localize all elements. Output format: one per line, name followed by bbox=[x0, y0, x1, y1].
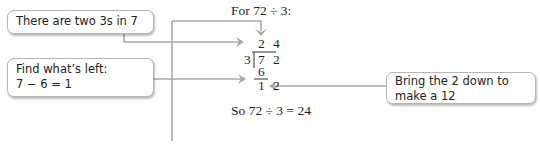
divisor: 3 bbox=[244, 52, 251, 68]
callout-text-line1: Bring the 2 down to bbox=[395, 74, 527, 89]
remainder-digit-2: 2 bbox=[273, 78, 280, 94]
callout-text-line1: Find what’s left: bbox=[16, 62, 145, 77]
quotient-digit-2: 4 bbox=[273, 36, 280, 52]
division-conclusion: So 72 ÷ 3 = 24 bbox=[231, 103, 311, 119]
callout-two-threes: There are two 3s in 7 bbox=[7, 10, 154, 34]
callout-bring-down: Bring the 2 down to make a 12 bbox=[386, 72, 536, 104]
dividend-digit-2: 2 bbox=[273, 52, 280, 68]
callout-text-line2: make a 12 bbox=[395, 89, 527, 104]
callout-text-line2: 7 − 6 = 1 bbox=[16, 77, 145, 92]
callout-text: There are two 3s in 7 bbox=[16, 14, 138, 28]
division-title: For 72 ÷ 3: bbox=[231, 3, 291, 19]
remainder-digit-1: 1 bbox=[258, 78, 265, 94]
quotient-digit-1: 2 bbox=[258, 36, 265, 52]
callout-find-left: Find what’s left: 7 − 6 = 1 bbox=[7, 58, 154, 97]
